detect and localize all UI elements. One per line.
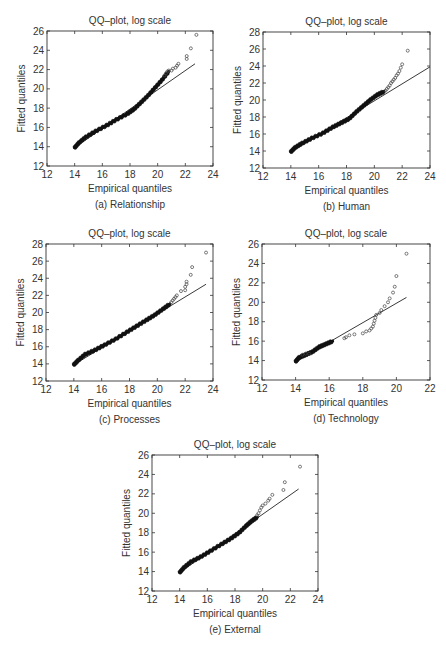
x-tick-label: 22 <box>180 169 192 180</box>
y-axis-label: Fitted quantiles <box>15 279 26 347</box>
y-tick-label: 24 <box>33 45 45 56</box>
x-axis-label: Empirical quantiles <box>304 397 388 408</box>
data-point <box>373 319 376 322</box>
data-point <box>264 502 267 505</box>
subplot-caption: (b) Human <box>323 201 370 212</box>
plot-title: QQ–plot, log scale <box>194 439 277 450</box>
data-point <box>255 517 258 520</box>
y-tick-label: 22 <box>249 78 261 89</box>
data-point <box>271 493 274 496</box>
data-point <box>371 325 374 328</box>
y-tick-label: 26 <box>248 239 260 250</box>
x-tick-label: 20 <box>152 384 164 395</box>
y-tick-label: 20 <box>249 95 261 106</box>
x-tick-label: 14 <box>285 171 297 182</box>
data-point <box>361 332 364 335</box>
data-point <box>299 465 302 468</box>
y-tick-label: 26 <box>32 256 44 267</box>
y-tick-label: 14 <box>248 355 260 366</box>
y-tick-label: 12 <box>32 376 44 387</box>
data-point <box>392 291 395 294</box>
y-tick-label: 24 <box>138 469 150 480</box>
qq-subplot-c: QQ–plot, log scale1214161820222412141618… <box>15 228 219 425</box>
plot-title: QQ–plot, log scale <box>305 228 388 239</box>
data-point <box>395 275 398 278</box>
y-tick-label: 16 <box>32 341 44 352</box>
y-tick-label: 18 <box>33 103 45 114</box>
x-tick-label: 22 <box>397 171 409 182</box>
y-tick-label: 18 <box>249 112 261 123</box>
x-tick-label: 18 <box>124 384 136 395</box>
data-point <box>258 509 261 512</box>
y-tick-label: 12 <box>33 161 45 172</box>
x-tick-label: 14 <box>290 383 302 394</box>
y-tick-label: 22 <box>138 488 150 499</box>
y-tick-label: 14 <box>32 358 44 369</box>
y-tick-label: 28 <box>32 239 44 250</box>
qq-subplot-a: QQ–plot, log scale1214161820222412141618… <box>16 15 219 210</box>
y-axis-label: Fitted quantiles <box>16 65 27 133</box>
data-point <box>401 63 404 66</box>
x-tick-label: 22 <box>180 384 192 395</box>
y-tick-label: 18 <box>138 527 150 538</box>
x-tick-label: 14 <box>174 594 186 605</box>
axes-frame <box>262 244 430 380</box>
qq-subplot-d: QQ–plot, log scale1214161820221214161820… <box>231 228 436 424</box>
y-tick-label: 14 <box>33 141 45 152</box>
data-point <box>383 305 386 308</box>
x-axis-label: Empirical quantiles <box>88 398 172 409</box>
data-point <box>348 334 351 337</box>
y-tick-label: 20 <box>32 307 44 318</box>
data-point <box>189 273 192 276</box>
x-tick-label: 14 <box>69 169 81 180</box>
x-tick-label: 24 <box>312 594 324 605</box>
qq-subplot-e: QQ–plot, log scale1214161820222412141618… <box>121 439 324 635</box>
x-tick-label: 16 <box>313 171 325 182</box>
data-point <box>368 329 371 332</box>
data-point <box>191 266 194 269</box>
x-tick-label: 20 <box>391 383 403 394</box>
data-point <box>405 252 408 255</box>
data-point <box>205 251 208 254</box>
data-point <box>398 70 401 73</box>
y-tick-label: 24 <box>32 273 44 284</box>
data-point <box>195 33 198 36</box>
y-tick-label: 14 <box>249 146 261 157</box>
x-tick-label: 24 <box>207 384 219 395</box>
axes-frame <box>152 455 318 591</box>
x-axis-label: Empirical quantiles <box>305 185 389 196</box>
data-point <box>161 78 164 81</box>
y-tick-label: 22 <box>33 64 45 75</box>
y-axis-label: Fitted quantiles <box>232 66 243 134</box>
data-point <box>374 316 377 319</box>
data-point <box>283 481 286 484</box>
y-tick-label: 26 <box>138 450 150 461</box>
axes-frame <box>263 32 430 168</box>
y-tick-label: 14 <box>138 566 150 577</box>
x-tick-label: 16 <box>202 594 214 605</box>
data-point <box>353 333 356 336</box>
x-axis-label: Empirical quantiles <box>193 608 277 619</box>
y-tick-label: 22 <box>32 290 44 301</box>
y-tick-label: 24 <box>248 258 260 269</box>
data-point <box>365 330 368 333</box>
y-tick-label: 12 <box>138 586 150 597</box>
y-tick-label: 16 <box>249 129 261 140</box>
y-tick-label: 20 <box>33 83 45 94</box>
data-point <box>380 309 383 312</box>
x-tick-label: 16 <box>96 384 108 395</box>
data-point <box>388 297 391 300</box>
x-tick-label: 20 <box>152 169 164 180</box>
x-axis-label: Empirical quantiles <box>88 183 172 194</box>
x-tick-label: 18 <box>124 169 136 180</box>
x-tick-label: 16 <box>97 169 109 180</box>
data-point <box>387 301 390 304</box>
data-point <box>370 327 373 330</box>
data-point <box>189 47 192 50</box>
data-point <box>282 488 285 491</box>
x-tick-label: 18 <box>229 594 241 605</box>
plot-title: QQ–plot, log scale <box>88 228 171 239</box>
x-tick-label: 18 <box>341 171 353 182</box>
data-point <box>167 304 170 307</box>
y-axis-label: Fitted quantiles <box>121 489 132 557</box>
